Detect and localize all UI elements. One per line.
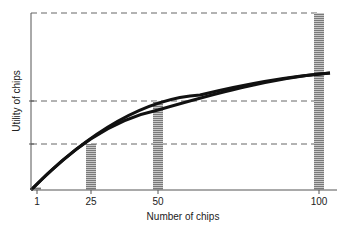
bar-50 <box>153 101 163 190</box>
chart: 1 25 50 100 Number of chips Utility of c… <box>0 0 357 231</box>
bar-100 <box>314 13 324 190</box>
x-tick-label: 50 <box>152 196 164 207</box>
x-tick-label: 1 <box>34 196 40 207</box>
bar-25 <box>86 144 96 190</box>
utility-curve <box>31 73 330 190</box>
x-tick-label: 100 <box>311 196 328 207</box>
x-tick-label: 25 <box>85 196 97 207</box>
utility-curve-overlay <box>31 73 330 190</box>
y-axis-label: Utility of chips <box>11 70 22 132</box>
x-axis-label: Number of chips <box>147 211 220 222</box>
